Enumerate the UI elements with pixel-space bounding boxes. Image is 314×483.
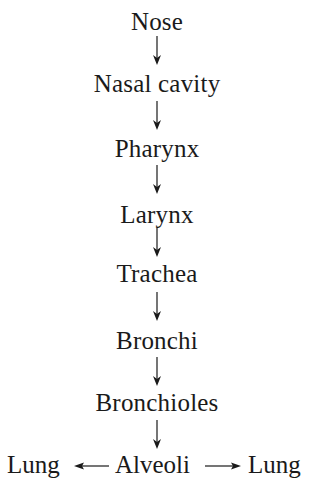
node-lung-right: Lung <box>248 452 301 477</box>
node-larynx: Larynx <box>0 202 314 227</box>
node-nasal-cavity: Nasal cavity <box>0 71 314 96</box>
bottom-row: Lung Alveoli Lung <box>0 452 314 480</box>
arrow-left-icon <box>74 461 110 471</box>
arrow-down-icon <box>150 357 164 387</box>
node-pharynx: Pharynx <box>0 136 314 161</box>
arrow-down-icon <box>150 101 164 131</box>
arrow-down-icon <box>150 228 164 258</box>
arrow-right-icon <box>205 461 241 471</box>
arrow-down-icon <box>150 165 164 195</box>
node-alveoli: Alveoli <box>115 452 190 477</box>
node-nose: Nose <box>0 9 314 34</box>
node-lung-left: Lung <box>7 452 60 477</box>
arrow-down-icon <box>150 292 164 322</box>
node-trachea: Trachea <box>0 261 314 286</box>
arrow-down-icon <box>150 420 164 450</box>
arrow-down-icon <box>150 36 164 66</box>
node-bronchi: Bronchi <box>0 328 314 353</box>
node-bronchioles: Bronchioles <box>0 390 314 415</box>
